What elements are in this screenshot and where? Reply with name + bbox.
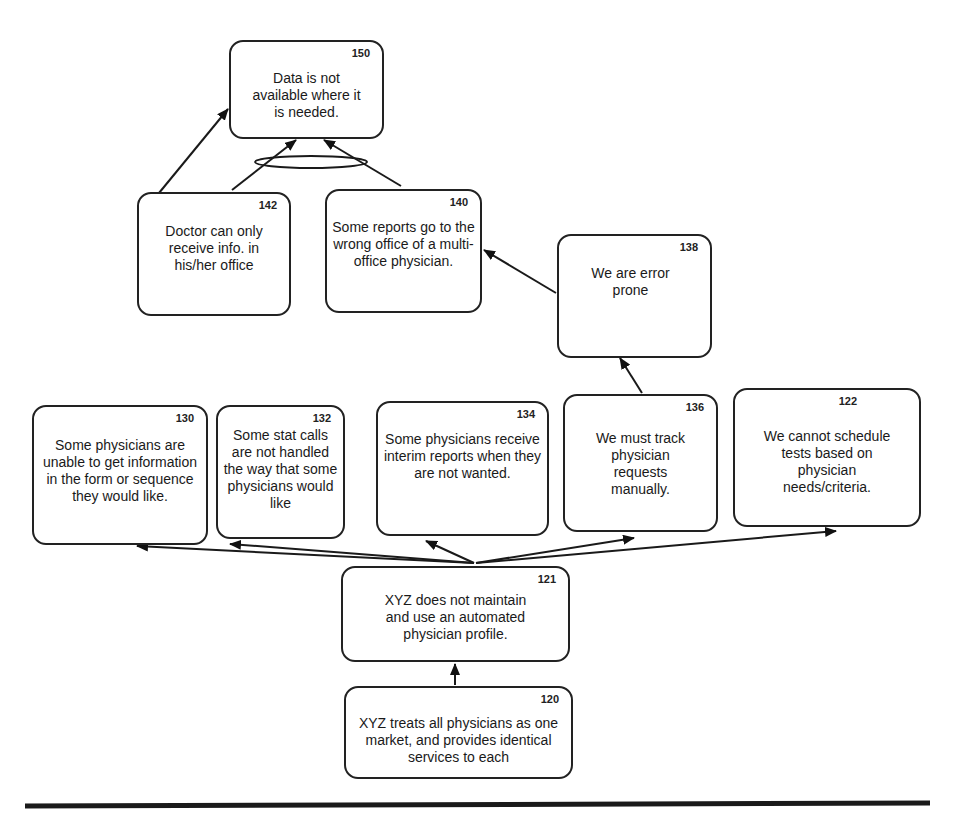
node-138: 138 We are error prone — [557, 234, 712, 358]
node-140: 140 Some reports go to the wrong office … — [325, 189, 482, 313]
node-text: Some reports go to the wrong office of a… — [331, 219, 476, 270]
node-number: 120 — [541, 693, 559, 705]
node-number: 138 — [680, 241, 698, 253]
node-number: 132 — [313, 412, 331, 424]
node-132: 132 Some stat calls are not handled the … — [216, 405, 345, 539]
node-text: We are error prone — [581, 265, 680, 299]
node-text: We cannot schedule tests based on physic… — [755, 428, 899, 496]
node-number: 140 — [450, 196, 468, 208]
node-text: XYZ does not maintain and use an automat… — [373, 592, 538, 643]
cause-effect-diagram: 150 Data is not available where it is ne… — [0, 0, 956, 827]
node-number: 142 — [259, 199, 277, 211]
node-text: Some physicians are unable to get inform… — [38, 437, 202, 505]
node-134: 134 Some physicians receive interim repo… — [376, 401, 549, 536]
arrow-121-to-130 — [137, 546, 474, 563]
arrow-142-to-150 — [159, 109, 228, 193]
node-136: 136 We must track physician requests man… — [563, 394, 718, 532]
node-number: 122 — [839, 395, 857, 407]
node-142: 142 Doctor can only receive info. in his… — [137, 192, 291, 316]
node-number: 150 — [352, 47, 370, 59]
node-text: Some stat calls are not handled the way … — [222, 427, 339, 512]
node-text: We must track physician requests manuall… — [583, 430, 698, 498]
node-number: 136 — [686, 401, 704, 413]
node-120: 120 XYZ treats all physicians as one mar… — [344, 686, 573, 779]
arrow-140-to-150-and — [324, 140, 401, 186]
node-text: XYZ treats all physicians as one market,… — [352, 715, 565, 766]
node-number: 130 — [176, 412, 194, 424]
node-150: 150 Data is not available where it is ne… — [229, 40, 384, 139]
node-text: Doctor can only receive info. in his/her… — [153, 223, 275, 274]
node-121: 121 XYZ does not maintain and use an aut… — [341, 566, 570, 662]
and-connector-ellipse — [255, 156, 367, 168]
node-122: 122 We cannot schedule tests based on ph… — [733, 388, 921, 527]
node-text: Some physicians receive interim reports … — [382, 431, 543, 482]
node-number: 121 — [538, 573, 556, 585]
node-130: 130 Some physicians are unable to get in… — [32, 405, 208, 545]
node-text: Data is not available where it is needed… — [251, 70, 362, 121]
node-number: 134 — [517, 408, 535, 420]
arrow-136-to-138 — [620, 358, 642, 393]
arrow-138-to-140 — [484, 250, 556, 293]
